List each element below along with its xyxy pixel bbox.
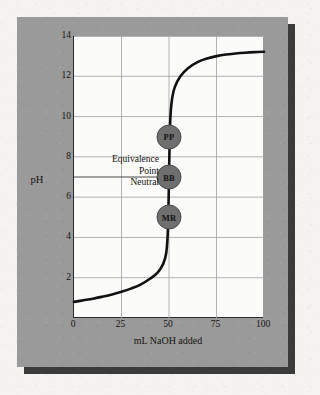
x-axis-tick-label: 75 [211, 320, 221, 330]
y-axis-tick-label: 8 [49, 152, 71, 162]
x-axis-tick-label: 0 [71, 320, 76, 330]
annotation-line: Neutral [77, 177, 159, 189]
annotation-line: Equivalence [77, 154, 159, 166]
y-axis-tick-label: 14 [49, 31, 71, 41]
x-axis-title: mL NaOH added [73, 335, 263, 346]
x-axis-tick-label: 100 [256, 320, 270, 330]
x-axis-tick-label: 50 [163, 320, 173, 330]
y-axis-title: pH [25, 174, 49, 185]
indicator-marker-phenolphthalein: PP [157, 124, 182, 149]
y-axis-tick-label: 4 [49, 233, 71, 243]
y-axis-tick-label: 6 [49, 192, 71, 202]
equivalence-point-annotation: EquivalencePointNeutral [77, 154, 159, 189]
y-axis-tick-label: 12 [49, 72, 71, 82]
x-axis-tick-labels: 0255075100 [73, 320, 263, 334]
x-axis-tick-label: 25 [116, 320, 126, 330]
annotation-line: Point [77, 166, 159, 178]
indicator-marker-methyl-red: MR [157, 205, 182, 230]
titration-curve-figure: PPBBMR 2468101214 0255075100 pH mL NaOH … [0, 0, 320, 395]
y-axis-tick-label: 2 [49, 273, 71, 283]
indicator-marker-bromthymol-blue: BB [157, 165, 182, 190]
y-axis-tick-label: 10 [49, 112, 71, 122]
figure-panel: PPBBMR 2468101214 0255075100 pH mL NaOH … [17, 17, 288, 367]
